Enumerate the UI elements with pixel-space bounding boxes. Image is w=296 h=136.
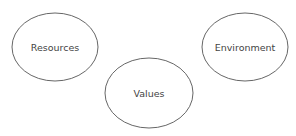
diagram-svg: Resources Values Environment bbox=[0, 0, 296, 136]
values-label: Values bbox=[133, 88, 164, 99]
node-environment: Environment bbox=[202, 13, 288, 81]
node-values: Values bbox=[105, 58, 193, 128]
resources-label: Resources bbox=[31, 42, 80, 53]
environment-label: Environment bbox=[215, 42, 276, 53]
node-resources: Resources bbox=[12, 13, 98, 81]
diagram-canvas: Resources Values Environment bbox=[0, 0, 296, 136]
